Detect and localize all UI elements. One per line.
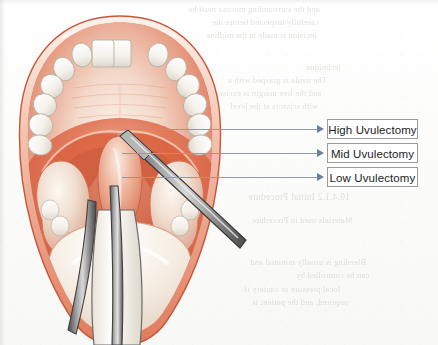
- label-high-uvulectomy[interactable]: High Uvulectomy: [327, 119, 418, 139]
- arrow-head-high: [317, 125, 324, 133]
- page-edge-shadow-top: [0, 0, 438, 4]
- leader-line-high: [122, 129, 318, 130]
- leader-line-low: [122, 177, 318, 178]
- oral-cavity-illustration: [2, 14, 248, 345]
- arrow-head-low: [317, 173, 324, 181]
- arrow-head-mid: [317, 149, 324, 157]
- figure-page: and the surrounding mucosa must becarefu…: [0, 0, 438, 345]
- leader-line-mid: [122, 153, 318, 154]
- label-mid-uvulectomy[interactable]: Mid Uvulectomy: [327, 143, 418, 163]
- label-low-uvulectomy[interactable]: Low Uvulectomy: [327, 167, 418, 187]
